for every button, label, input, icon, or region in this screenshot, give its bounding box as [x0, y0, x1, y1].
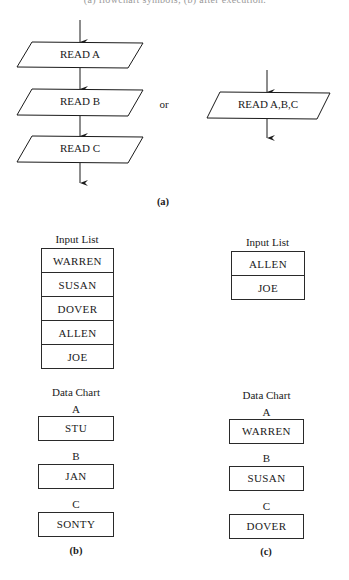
input-list-item: SUSAN: [42, 273, 113, 297]
input-list-item: ALLEN: [42, 321, 113, 345]
input-list-item: DOVER: [42, 297, 113, 321]
input-list-item: JOE: [42, 345, 113, 369]
input-list-item: WARREN: [42, 249, 113, 273]
input-list-title-b: Input List: [41, 233, 113, 245]
variable-box-a: STU: [38, 416, 114, 441]
variable-box-c: DOVER: [229, 514, 304, 539]
input-list-item: JOE: [232, 276, 304, 300]
read-a-label: READ A: [30, 48, 130, 60]
variable-label-c: C: [229, 500, 304, 512]
variable-label-a: A: [229, 406, 304, 418]
input-list-item: ALLEN: [232, 252, 304, 276]
read-c-label: READ C: [30, 142, 130, 154]
caption-b: (b): [61, 545, 91, 556]
input-list-c: ALLEN JOE: [231, 251, 305, 300]
variable-label-a: A: [38, 403, 114, 415]
read-b-label: READ B: [30, 95, 130, 107]
input-list-title-c: Input List: [231, 236, 304, 248]
read-abc-label: READ A,B,C: [218, 98, 318, 110]
data-chart-title-b: Data Chart: [38, 386, 114, 398]
or-label: or: [152, 98, 176, 110]
caption-c: (c): [251, 546, 281, 557]
data-chart-title-c: Data Chart: [229, 389, 304, 401]
variable-label-b: B: [38, 450, 114, 462]
variable-label-c: C: [38, 498, 114, 510]
variable-box-a: WARREN: [229, 419, 304, 444]
variable-box-b: SUSAN: [229, 466, 304, 491]
variable-label-b: B: [229, 452, 304, 464]
variable-box-b: JAN: [38, 464, 114, 489]
input-list-b: WARREN SUSAN DOVER ALLEN JOE: [41, 248, 114, 369]
variable-box-c: SONTY: [38, 512, 114, 537]
caption-a: (a): [148, 196, 178, 207]
